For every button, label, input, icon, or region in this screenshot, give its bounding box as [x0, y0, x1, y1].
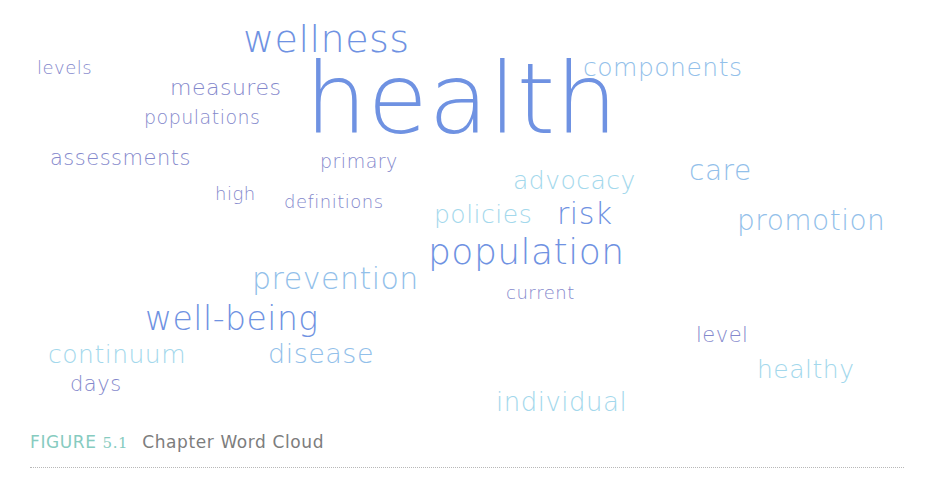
- figure-title: Chapter Word Cloud: [142, 432, 324, 452]
- word-populations: populations: [144, 108, 261, 127]
- word-individual: individual: [496, 389, 627, 415]
- word-risk: risk: [557, 199, 613, 229]
- word-care: care: [689, 157, 752, 185]
- word-primary: primary: [320, 152, 398, 171]
- word-measures: measures: [170, 77, 281, 99]
- word-population: population: [428, 234, 625, 270]
- word-promotion: promotion: [737, 207, 885, 235]
- word-cloud: wellness levels components measures heal…: [0, 0, 936, 410]
- word-current: current: [506, 284, 575, 302]
- word-policies: policies: [434, 202, 532, 227]
- word-healthy: healthy: [757, 357, 854, 382]
- word-prevention: prevention: [252, 264, 419, 294]
- word-continuum: continuum: [48, 342, 186, 367]
- word-advocacy: advocacy: [513, 168, 636, 193]
- figure-number: 5.1: [103, 434, 129, 452]
- word-assessments: assessments: [50, 148, 191, 169]
- word-level: level: [696, 325, 748, 346]
- word-days: days: [70, 374, 122, 395]
- figure-label-text: FIGURE: [30, 432, 97, 452]
- word-disease: disease: [268, 340, 374, 367]
- word-levels: levels: [37, 59, 92, 77]
- word-definitions: definitions: [284, 193, 384, 211]
- word-high: high: [215, 185, 256, 203]
- word-health: health: [305, 50, 618, 148]
- figure-label: FIGURE 5.1: [30, 432, 128, 452]
- word-well-being: well-being: [145, 302, 319, 335]
- figure-caption: FIGURE 5.1Chapter Word Cloud: [30, 432, 324, 452]
- caption-divider: [30, 467, 904, 468]
